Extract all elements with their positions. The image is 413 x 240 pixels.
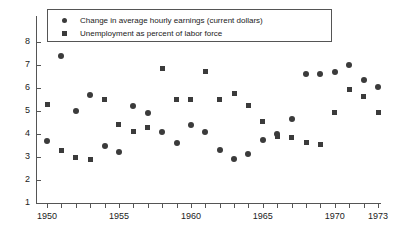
data-point: [116, 122, 121, 127]
x-tick: [292, 204, 293, 208]
data-point: [289, 135, 294, 140]
square-marker-icon: [62, 31, 74, 36]
x-tick-label: 1955: [99, 212, 139, 221]
x-tick: [378, 204, 379, 208]
data-point: [59, 148, 64, 153]
x-tick: [191, 204, 192, 208]
x-tick: [119, 204, 120, 208]
data-point: [102, 97, 107, 102]
data-point: [317, 71, 323, 77]
data-point: [289, 116, 295, 122]
data-point: [318, 142, 323, 147]
x-tick: [277, 204, 278, 208]
legend-label-unemployment: Unemployment as percent of labor force: [80, 29, 222, 39]
y-tick-label: 1: [8, 198, 30, 207]
x-tick: [263, 204, 264, 208]
data-point: [174, 140, 180, 146]
data-point: [347, 87, 352, 92]
x-tick-label: 1965: [243, 212, 283, 221]
data-point: [131, 129, 136, 134]
data-point: [58, 53, 64, 59]
y-tick-label: 6: [8, 83, 30, 92]
x-tick: [220, 204, 221, 208]
data-point: [232, 91, 237, 96]
y-tick-label: 4: [8, 129, 30, 138]
x-tick: [133, 204, 134, 208]
x-tick: [364, 204, 365, 208]
data-point: [130, 103, 136, 109]
x-axis-line: [36, 203, 381, 204]
chart-legend: Change in average hourly earnings (curre…: [47, 9, 332, 42]
x-tick: [76, 204, 77, 208]
legend-label-earnings: Change in average hourly earnings (curre…: [80, 16, 263, 26]
data-point: [159, 129, 165, 135]
y-tick-label: 2: [8, 175, 30, 184]
data-point: [188, 97, 193, 102]
data-point: [174, 97, 179, 102]
x-tick: [177, 204, 178, 208]
data-point: [188, 122, 194, 128]
y-tick-label: 5: [8, 106, 30, 115]
plot-area: [36, 16, 381, 203]
circle-marker-icon: [62, 18, 74, 23]
x-tick: [205, 204, 206, 208]
y-tick: [36, 203, 41, 204]
data-point: [202, 129, 208, 135]
data-point: [203, 69, 208, 74]
scatter-chart: 12345678 195019551960196519701973 Change…: [0, 0, 413, 240]
data-point: [217, 97, 222, 102]
data-point: [145, 125, 150, 130]
x-tick: [61, 204, 62, 208]
data-point: [303, 71, 309, 77]
data-point: [332, 110, 337, 115]
legend-item-earnings: Change in average hourly earnings (curre…: [62, 14, 331, 27]
x-tick-label: 1973: [358, 212, 398, 221]
data-point: [246, 103, 251, 108]
data-point: [304, 140, 309, 145]
x-tick: [47, 204, 48, 208]
data-point: [346, 62, 352, 68]
data-point: [44, 138, 50, 144]
data-point: [361, 94, 366, 99]
data-point: [376, 110, 381, 115]
data-point: [87, 92, 93, 98]
x-tick: [306, 204, 307, 208]
data-point: [260, 119, 265, 124]
data-point: [160, 66, 165, 71]
data-point: [375, 84, 381, 90]
data-point: [275, 134, 280, 139]
data-point: [102, 143, 108, 149]
x-tick: [320, 204, 321, 208]
x-tick: [349, 204, 350, 208]
data-point: [45, 102, 50, 107]
x-tick-label: 1970: [315, 212, 355, 221]
data-point: [88, 157, 93, 162]
x-tick-label: 1960: [171, 212, 211, 221]
x-tick: [234, 204, 235, 208]
data-point: [116, 149, 122, 155]
data-point: [231, 156, 237, 162]
data-point: [73, 155, 78, 160]
data-point: [245, 151, 251, 157]
x-tick: [105, 204, 106, 208]
y-tick-label: 8: [8, 37, 30, 46]
x-tick: [248, 204, 249, 208]
data-point: [73, 108, 79, 114]
y-tick-label: 7: [8, 60, 30, 69]
x-tick: [148, 204, 149, 208]
x-tick: [162, 204, 163, 208]
data-point: [332, 69, 338, 75]
legend-item-unemployment: Unemployment as percent of labor force: [62, 27, 331, 40]
data-point: [217, 147, 223, 153]
y-tick-label: 3: [8, 152, 30, 161]
data-point: [361, 77, 367, 83]
data-point: [145, 110, 151, 116]
x-tick: [335, 204, 336, 208]
x-tick-label: 1950: [27, 212, 67, 221]
data-point: [260, 137, 266, 143]
x-tick: [90, 204, 91, 208]
